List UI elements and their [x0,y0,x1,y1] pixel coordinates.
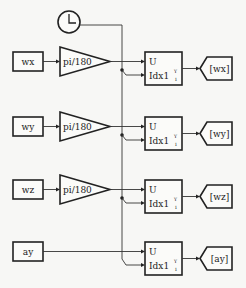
selector-in1-label: U [149,57,157,67]
from-tag-label: wy [22,122,36,132]
goto-tag-label: [wz] [210,192,229,202]
selector-in2-label: Idx1 [149,136,169,146]
selector-in2-label: Idx1 [149,199,169,209]
goto-tag-label: [ay] [211,254,228,264]
from-tag-label: wx [22,57,35,67]
selector-sub-label: 1 [175,77,178,82]
selector-in2-label: Idx1 [149,261,169,271]
row-wz: wz pi/180 U Idx1 Y 1 [wz] [13,175,232,213]
gain-label: pi/180 [63,122,92,132]
selector-sub-label: 1 [175,267,178,272]
gain-label: pi/180 [63,185,92,195]
from-tag-label: ay [23,247,34,257]
row-wy: wy pi/180 U Idx1 Y 1 [wy] [13,112,232,150]
selector-in2-label: Idx1 [149,71,169,81]
goto-tag-label: [wy] [210,129,230,139]
row-wx: wx pi/180 U Idx1 Y 1 [wx] [13,47,232,85]
from-tag-label: wz [22,185,35,195]
block-diagram-canvas: wx pi/180 U Idx1 Y 1 [wx] wy pi/180 U Id… [0,0,246,288]
row-ay: ay U Idx1 Y 1 [ay] [13,242,232,275]
selector-in1-label: U [149,122,157,132]
selector-sub-label: 1 [175,205,178,210]
gain-label: pi/180 [63,57,92,67]
goto-tag-label: [wx] [210,64,230,74]
selector-sub-label: 1 [175,142,178,147]
clock-block[interactable] [58,11,80,33]
selector-in1-label: U [149,185,157,195]
selector-in1-label: U [149,247,157,257]
